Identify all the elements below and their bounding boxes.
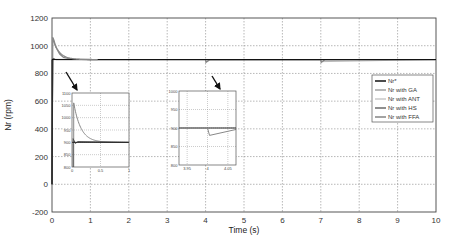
inset-y-tick: 1000: [62, 115, 72, 120]
y-tick-label: 400: [35, 125, 49, 134]
inset-y-tick: 900: [64, 140, 71, 145]
arrow-icon: [66, 72, 77, 90]
y-tick-label: -200: [32, 208, 49, 217]
inset-y-tick: 800: [171, 163, 178, 168]
inset-y-tick: 1000: [169, 89, 179, 94]
x-tick-label: 7: [319, 216, 324, 225]
inset-y-tick: 850: [64, 152, 71, 157]
line-chart: 012345678910120010008006004002000-200 00…: [0, 0, 459, 247]
x-axis-label: Time (s): [229, 225, 260, 235]
inset-y-tick: 1100: [62, 91, 71, 96]
x-tick-label: 6: [280, 216, 285, 225]
x-tick-label: 3: [165, 216, 170, 225]
x-tick-label: 9: [395, 216, 400, 225]
x-tick-label: 5: [242, 216, 247, 225]
y-tick-label: 600: [35, 97, 49, 106]
inset-y-tick: 950: [64, 128, 71, 133]
inset-x-tick: 0: [71, 168, 74, 173]
y-axis-label: Nr (rpm): [3, 99, 13, 131]
inset-x-tick: 1: [128, 168, 131, 173]
legend-item: Nr with ANT: [388, 96, 420, 102]
x-tick-label: 10: [432, 216, 441, 225]
legend-item: Nr with FFA: [388, 114, 419, 120]
y-tick-label: 0: [44, 180, 49, 189]
x-tick-label: 8: [357, 216, 362, 225]
legend: Nr*Nr with GANr with ANTNr with HSNr wit…: [372, 75, 433, 122]
inset-x-tick: 0.5: [98, 168, 104, 173]
inset-y-tick: 900: [171, 126, 178, 131]
inset-x-tick: 3.95: [183, 166, 192, 171]
inset-startup: 00.51110010501000950900850800: [62, 91, 131, 174]
x-tick-label: 1: [88, 216, 93, 225]
arrow-icon: [212, 76, 220, 89]
legend-item: Nr*: [388, 78, 397, 84]
inset-y-tick: 850: [171, 144, 178, 149]
x-tick-label: 2: [127, 216, 132, 225]
inset-disturbance: 3.9544.051000950900850800: [169, 89, 236, 172]
inset-y-tick: 1050: [62, 103, 72, 108]
inset-x-tick: 4: [206, 166, 209, 171]
x-tick-label: 0: [50, 216, 55, 225]
inset-y-tick: 950: [171, 107, 178, 112]
y-tick-label: 1000: [30, 42, 48, 51]
y-tick-label: 800: [35, 69, 49, 78]
inset-y-tick: 800: [64, 165, 71, 170]
x-tick-label: 4: [203, 216, 208, 225]
y-tick-label: 200: [35, 153, 49, 162]
legend-item: Nr with GA: [388, 87, 417, 93]
legend-item: Nr with HS: [388, 105, 417, 111]
inset-x-tick: 4.05: [224, 166, 233, 171]
annotation-arrows: [66, 72, 220, 90]
y-tick-label: 1200: [30, 14, 48, 23]
